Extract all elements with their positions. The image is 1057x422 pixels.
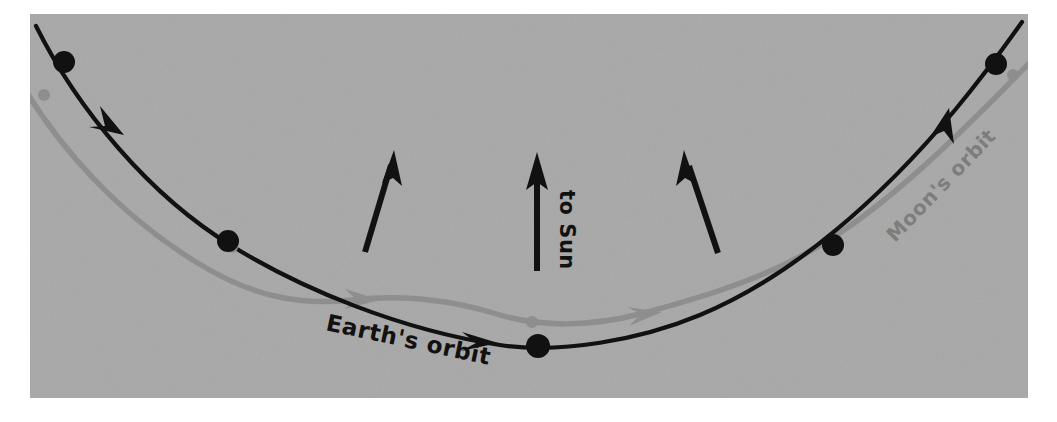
earth-body-2 xyxy=(217,230,239,252)
to-sun-label: to Sun xyxy=(555,190,579,270)
moon-body-3 xyxy=(526,316,538,328)
moon-body-1 xyxy=(38,89,50,101)
earth-body-3 xyxy=(526,334,550,358)
orbit-diagram-canvas: Earth's orbit Moon's orbit to Sun xyxy=(0,0,1057,422)
orbit-diagram-figure: Earth's orbit Moon's orbit to Sun xyxy=(0,0,1057,422)
earth-body-1 xyxy=(53,51,75,73)
moon-body-5 xyxy=(1007,69,1019,81)
earth-body-5 xyxy=(985,53,1007,75)
earth-body-4 xyxy=(822,234,844,256)
